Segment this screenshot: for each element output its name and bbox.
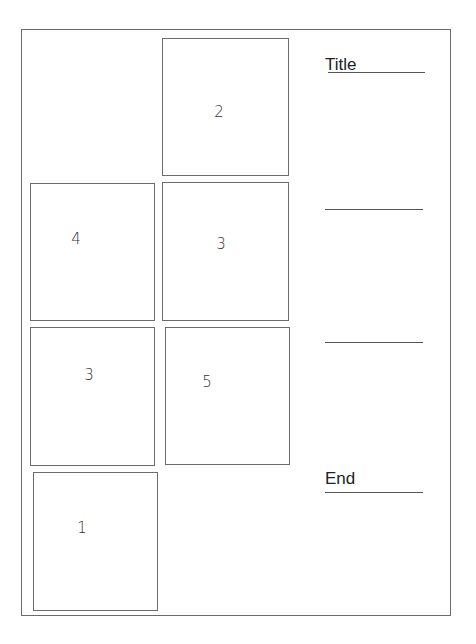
end-label: End [325, 470, 355, 487]
panel-number: 4 [71, 232, 81, 247]
panel-4[interactable]: 4 [30, 183, 155, 321]
panel-5[interactable]: 5 [165, 327, 290, 465]
title-label: Title [325, 56, 357, 73]
panel-3-upper[interactable]: 3 [162, 182, 289, 321]
panel-number: 2 [214, 105, 224, 120]
blank-line-2[interactable] [325, 342, 423, 343]
panel-number: 3 [84, 368, 94, 383]
panel-1[interactable]: 1 [33, 472, 158, 611]
blank-line-1[interactable] [325, 209, 423, 210]
panel-number: 3 [216, 237, 226, 252]
panel-number: 1 [77, 521, 87, 536]
panel-2[interactable]: 2 [162, 38, 289, 176]
end-underline [325, 492, 423, 493]
title-underline [328, 72, 425, 73]
panel-3-lower[interactable]: 3 [30, 327, 155, 466]
panel-number: 5 [202, 375, 212, 390]
